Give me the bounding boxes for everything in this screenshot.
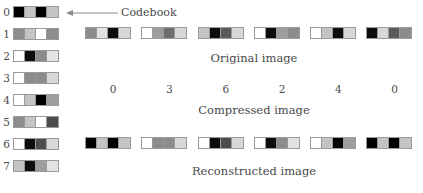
vector-cell (47, 73, 58, 83)
vector-cell (108, 138, 119, 148)
vector-cell (344, 138, 355, 148)
vector-cell (14, 7, 25, 17)
vector-cell (14, 139, 25, 149)
vector-cell (36, 95, 47, 105)
codebook-entry-index: 7 (0, 160, 13, 172)
vector-cell (36, 117, 47, 127)
original-image-block (198, 27, 244, 39)
vector-cell (389, 138, 400, 148)
vector-cell (400, 138, 411, 148)
original-image-block (254, 27, 300, 39)
reconstructed-image-row (85, 137, 423, 149)
reconstructed-image-block (310, 137, 356, 149)
codebook-panel: 01234567 (0, 0, 80, 193)
original-image-block-slot (141, 27, 197, 39)
codebook-entry: 1 (0, 28, 59, 40)
vector-cell (400, 28, 411, 38)
codebook-entry: 2 (0, 50, 59, 62)
reconstructed-image-block (254, 137, 300, 149)
codebook-entry: 6 (0, 138, 59, 150)
vector-cell (108, 28, 119, 38)
vector-cell (367, 28, 378, 38)
vector-cell (142, 138, 153, 148)
codebook-entry: 7 (0, 160, 59, 172)
vector-cell (119, 28, 130, 38)
vector-cell (142, 28, 153, 38)
vector-cell (333, 138, 344, 148)
vector-cell (153, 138, 164, 148)
vector-cell (164, 138, 175, 148)
vector-cell (266, 138, 277, 148)
vector-cell (14, 73, 25, 83)
codebook-entry: 0 (0, 6, 59, 18)
vector-cell (378, 28, 389, 38)
codebook-entry-index: 6 (0, 138, 13, 150)
original-image-block-slot (310, 27, 366, 39)
codebook-entry-vector (13, 94, 59, 106)
original-image-row (85, 27, 423, 39)
original-image-caption: Original image (85, 51, 423, 65)
codebook-entry-vector (13, 160, 59, 172)
compressed-image-caption: Compressed image (85, 103, 423, 117)
vector-cell (97, 28, 108, 38)
vector-cell (47, 29, 58, 39)
vector-cell (25, 161, 36, 171)
codebook-entry-index: 1 (0, 28, 13, 40)
vector-cell (25, 29, 36, 39)
vector-cell (25, 7, 36, 17)
vector-cell (14, 29, 25, 39)
reconstructed-image-block-slot (366, 137, 422, 149)
vector-cell (36, 29, 47, 39)
vector-cell (288, 28, 299, 38)
vector-cell (25, 139, 36, 149)
vector-cell (25, 51, 36, 61)
codebook-entry: 5 (0, 116, 59, 128)
vector-cell (36, 73, 47, 83)
reconstructed-image-block (366, 137, 412, 149)
codebook-entry-index: 2 (0, 50, 13, 62)
figure-panel: Original image 036240 Compressed image R… (85, 0, 423, 193)
vector-cell (47, 139, 58, 149)
vector-cell (175, 138, 186, 148)
reconstructed-image-block (85, 137, 131, 149)
codebook-entry-index: 3 (0, 72, 13, 84)
original-image-block-slot (254, 27, 310, 39)
vector-cell (86, 138, 97, 148)
codebook-entry-vector (13, 28, 59, 40)
codebook-entry-index: 5 (0, 116, 13, 128)
codebook-entry-vector (13, 50, 59, 62)
vector-cell (311, 28, 322, 38)
vector-cell (175, 28, 186, 38)
original-image-block (85, 27, 131, 39)
vector-cell (14, 51, 25, 61)
reconstructed-image-block-slot (254, 137, 310, 149)
original-image-block-slot (366, 27, 422, 39)
vector-cell (277, 138, 288, 148)
vector-cell (210, 138, 221, 148)
vector-cell (367, 138, 378, 148)
codebook-entry-vector (13, 6, 59, 18)
vector-cell (47, 95, 58, 105)
reconstructed-image-block-slot (85, 137, 141, 149)
codebook-entry-vector (13, 116, 59, 128)
vector-cell (277, 28, 288, 38)
vector-cell (119, 138, 130, 148)
reconstructed-image-block (198, 137, 244, 149)
original-image-block-slot (198, 27, 254, 39)
vector-cell (25, 73, 36, 83)
vector-cell (25, 117, 36, 127)
vector-cell (322, 138, 333, 148)
vector-cell (322, 28, 333, 38)
vector-cell (389, 28, 400, 38)
vector-cell (199, 138, 210, 148)
vector-cell (344, 28, 355, 38)
vector-cell (86, 28, 97, 38)
reconstructed-image-block-slot (198, 137, 254, 149)
vector-cell (333, 28, 344, 38)
codebook-entry-index: 0 (0, 6, 13, 18)
vector-cell (47, 7, 58, 17)
reconstructed-image-block-slot (141, 137, 197, 149)
vector-cell (232, 28, 243, 38)
compressed-index-value: 0 (366, 82, 422, 96)
vector-cell (153, 28, 164, 38)
